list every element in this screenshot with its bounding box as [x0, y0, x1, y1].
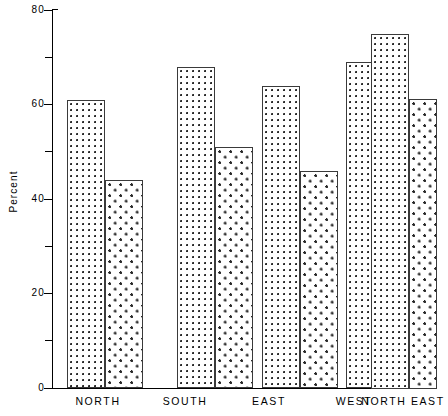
y-tick-80 [44, 10, 53, 11]
bar-south-series-1 [177, 67, 215, 388]
y-tick-label-40: 40 [31, 194, 45, 204]
bar-east-series-2 [300, 171, 338, 388]
y-tick-label-60: 60 [31, 99, 45, 109]
y-tick-label-20: 20 [31, 288, 45, 298]
y-tick-label-0: 0 [38, 383, 45, 393]
category-label-north: NORTH [53, 395, 143, 408]
bar-northeast-series-2 [409, 99, 437, 389]
y-tick-30 [45, 246, 53, 247]
bar-east-series-1 [262, 86, 300, 388]
y-tick-70 [45, 57, 53, 58]
y-tick-label-80: 80 [31, 5, 45, 15]
category-label-east: EAST [224, 395, 314, 408]
y-tick-50 [45, 151, 53, 152]
y-tick-0 [44, 388, 53, 389]
y-axis-title: Percent [8, 137, 19, 247]
bar-south-series-2 [215, 147, 253, 388]
bar-north-series-2 [105, 180, 143, 388]
category-label-north-east: NORTH EAST [358, 395, 448, 408]
y-tick-40 [44, 199, 53, 200]
y-tick-20 [44, 293, 53, 294]
category-label-south: SOUTH [140, 395, 230, 408]
bar-north-series-1 [67, 100, 105, 388]
y-tick-10 [45, 340, 53, 341]
y-tick-60 [44, 104, 53, 105]
bar-northeast-series-1 [371, 34, 409, 389]
